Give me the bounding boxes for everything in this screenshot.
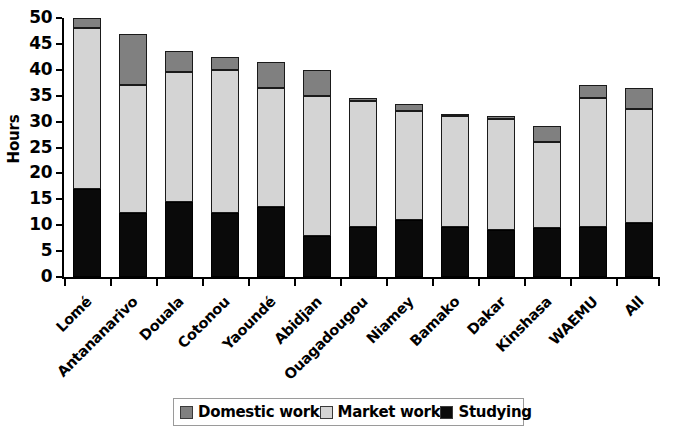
bar-segment-market-work <box>257 88 285 207</box>
x-tick-8 <box>432 279 434 286</box>
x-tick-4 <box>248 279 250 286</box>
bar-segment-studying <box>395 220 423 277</box>
x-tick-1 <box>110 279 112 286</box>
table-row[interactable] <box>487 116 515 277</box>
x-tick-end <box>658 279 660 286</box>
y-tick-label-5: 5 <box>18 240 52 260</box>
legend-label-domestic-work: Domestic work <box>198 403 320 421</box>
table-row[interactable] <box>533 126 561 277</box>
legend: Domestic work Market work Studying <box>173 398 524 426</box>
bar-segment-market-work <box>625 109 653 223</box>
x-tick-10 <box>524 279 526 286</box>
table-row[interactable] <box>349 98 377 277</box>
bar-segment-market-work <box>73 28 101 189</box>
x-tick-11 <box>570 279 572 286</box>
y-tick-label-50: 50 <box>18 7 52 27</box>
y-tick-label-0: 0 <box>18 266 52 286</box>
bar-segment-domestic-work <box>211 57 239 70</box>
table-row[interactable] <box>165 51 193 277</box>
y-tick-20 <box>56 172 62 174</box>
y-tick-25 <box>56 147 62 149</box>
bar-segment-domestic-work <box>579 85 607 98</box>
bar-segment-market-work <box>441 116 469 227</box>
y-tick-0 <box>56 276 62 278</box>
bar-segment-studying <box>257 207 285 277</box>
y-tick-label-35: 35 <box>18 85 52 105</box>
bar-segment-market-work <box>211 70 239 213</box>
x-tick-label-12: All <box>550 293 646 389</box>
bar-segment-domestic-work <box>441 114 469 116</box>
y-tick-35 <box>56 95 62 97</box>
bar-segment-studying <box>211 213 239 277</box>
table-row[interactable] <box>303 70 331 277</box>
y-tick-40 <box>56 69 62 71</box>
legend-label-studying: Studying <box>458 403 531 421</box>
bar-segment-domestic-work <box>625 88 653 109</box>
bar-segment-domestic-work <box>533 126 561 143</box>
bar-segment-market-work <box>487 119 515 230</box>
y-tick-5 <box>56 250 62 252</box>
x-tick-9 <box>478 279 480 286</box>
bar-segment-domestic-work <box>119 34 147 86</box>
y-tick-label-25: 25 <box>18 137 52 157</box>
bar-segment-domestic-work <box>395 104 423 111</box>
bar-segment-domestic-work <box>303 70 331 96</box>
bar-segment-studying <box>165 202 193 277</box>
y-tick-45 <box>56 43 62 45</box>
bar-segment-domestic-work <box>487 116 515 119</box>
bar-segment-market-work <box>533 142 561 228</box>
legend-item-studying[interactable]: Studying <box>440 403 531 421</box>
bar-segment-studying <box>487 230 515 277</box>
legend-swatch-studying <box>440 406 453 419</box>
x-tick-2 <box>156 279 158 286</box>
y-tick-label-30: 30 <box>18 111 52 131</box>
bar-segment-studying <box>349 227 377 277</box>
bar-segment-market-work <box>395 111 423 220</box>
y-tick-label-20: 20 <box>18 162 52 182</box>
table-row[interactable] <box>119 34 147 277</box>
legend-item-market-work[interactable]: Market work <box>320 403 441 421</box>
bar-segment-market-work <box>119 85 147 213</box>
x-tick-0 <box>64 279 66 286</box>
bar-segment-market-work <box>579 98 607 226</box>
y-tick-label-15: 15 <box>18 188 52 208</box>
y-tick-label-45: 45 <box>18 33 52 53</box>
x-tick-3 <box>202 279 204 286</box>
table-row[interactable] <box>73 18 101 277</box>
bar-segment-domestic-work <box>73 18 101 28</box>
stacked-bar-chart: Hours 05101520253035404550 LoméAntananar… <box>0 0 675 429</box>
bar-segment-studying <box>533 228 561 277</box>
bar-segment-studying <box>625 223 653 277</box>
table-row[interactable] <box>625 88 653 277</box>
table-row[interactable] <box>395 104 423 277</box>
table-row[interactable] <box>579 85 607 277</box>
bar-segment-studying <box>579 227 607 277</box>
bar-segment-domestic-work <box>257 62 285 88</box>
bar-segment-market-work <box>349 101 377 226</box>
y-tick-label-40: 40 <box>18 59 52 79</box>
x-tick-12 <box>616 279 618 286</box>
legend-item-domestic-work[interactable]: Domestic work <box>180 403 320 421</box>
y-tick-label-10: 10 <box>18 214 52 234</box>
bar-segment-domestic-work <box>165 51 193 72</box>
legend-swatch-domestic-work <box>180 406 193 419</box>
legend-swatch-market-work <box>320 406 333 419</box>
bar-segment-studying <box>303 236 331 277</box>
y-tick-15 <box>56 198 62 200</box>
bar-segment-studying <box>73 189 101 277</box>
legend-label-market-work: Market work <box>338 403 441 421</box>
bar-segment-studying <box>441 227 469 277</box>
x-tick-7 <box>386 279 388 286</box>
y-axis-line <box>62 18 64 279</box>
table-row[interactable] <box>211 57 239 277</box>
x-tick-6 <box>340 279 342 286</box>
x-tick-5 <box>294 279 296 286</box>
y-tick-50 <box>56 17 62 19</box>
y-tick-30 <box>56 121 62 123</box>
plot-area <box>62 18 660 279</box>
bar-segment-studying <box>119 213 147 277</box>
bar-segment-domestic-work <box>349 98 377 101</box>
y-tick-10 <box>56 224 62 226</box>
table-row[interactable] <box>441 114 469 277</box>
table-row[interactable] <box>257 62 285 277</box>
